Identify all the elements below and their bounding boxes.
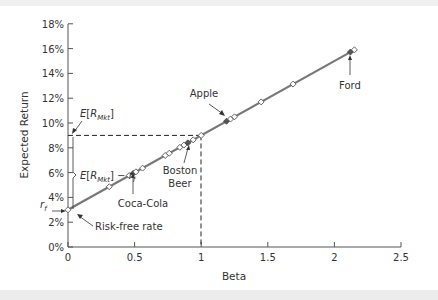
y-tick-label: 4% <box>48 192 64 203</box>
x-tick-label: 2 <box>331 252 337 263</box>
y-axis-label: Expected Return <box>18 91 30 178</box>
svg-text:Apple: Apple <box>190 88 218 99</box>
svg-text:Beer: Beer <box>168 178 192 189</box>
svg-text:E[RMkt] − rf: E[RMkt] − rf <box>80 170 137 184</box>
y-tick-label: 18% <box>42 19 64 30</box>
y-tick-label: 0% <box>48 242 64 253</box>
svg-text:rf: rf <box>40 199 48 213</box>
svg-text:Ford: Ford <box>339 80 361 91</box>
svg-text:Risk-free rate: Risk-free rate <box>95 221 163 232</box>
svg-text:Coca-Cola: Coca-Cola <box>118 198 168 209</box>
y-tick-label: 14% <box>42 68 64 79</box>
x-tick-label: 0.5 <box>127 252 143 263</box>
svg-text:E[RMkt]: E[RMkt] <box>80 108 114 122</box>
svg-text:Boston: Boston <box>163 165 198 176</box>
y-tick-label: 10% <box>42 118 64 129</box>
x-tick-label: 1.5 <box>260 252 276 263</box>
y-tick-label: 2% <box>48 217 64 228</box>
y-tick-label: 8% <box>48 143 64 154</box>
annotation-risk-free-rate: Risk-free rate <box>77 214 163 232</box>
annotation-ford: Ford <box>339 55 361 91</box>
x-axis-ticks: 00.511.522.5 <box>65 242 409 263</box>
annotation-apple: Apple <box>190 88 225 116</box>
annotation-e-rmkt: E[RMkt] <box>72 108 114 134</box>
x-axis-label: Beta <box>222 270 246 282</box>
x-tick-label: 2.5 <box>393 252 409 263</box>
y-tick-label: 6% <box>48 168 64 179</box>
y-tick-label: 12% <box>42 93 64 104</box>
sml-chart: 0%2%4%6%8%10%12%14%16%18% 00.511.522.5 E… <box>0 0 438 300</box>
x-tick-label: 1 <box>198 252 204 263</box>
y-tick-label: 16% <box>42 44 64 55</box>
x-tick-label: 0 <box>65 252 71 263</box>
